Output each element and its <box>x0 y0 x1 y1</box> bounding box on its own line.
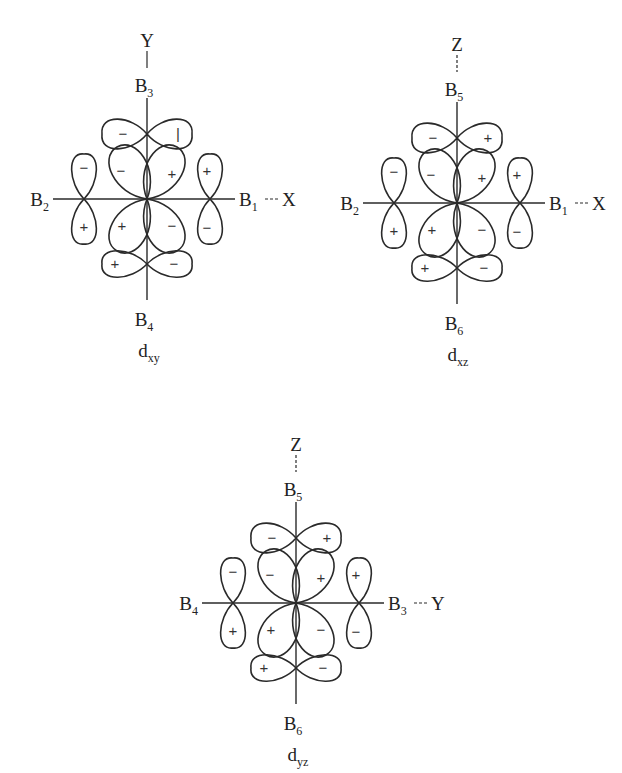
ligand-label-bottom: B6 <box>284 713 303 738</box>
axis-label-top: Y <box>140 30 154 51</box>
sign-left-upper: − <box>229 563 238 580</box>
sign-top-left: − <box>268 529 277 546</box>
axis-label-right: X <box>282 189 296 210</box>
ligand-label-bottom: B6 <box>445 313 464 338</box>
sign-center-lower-right: − <box>478 221 487 238</box>
ligand-label-top: B3 <box>135 75 154 100</box>
sign-right-upper: + <box>203 162 212 179</box>
sign-left-lower: + <box>80 218 89 235</box>
sign-center-lower-left: + <box>428 221 437 238</box>
sign-bottom-right: − <box>480 259 489 276</box>
sign-right-upper: + <box>513 166 522 183</box>
sign-center-upper-right: + <box>478 169 487 186</box>
sign-top-right: + <box>323 529 332 546</box>
sign-left-lower: + <box>229 622 238 639</box>
ligand-label-right: B3 <box>388 593 407 618</box>
axis-label-top: Z <box>290 434 302 455</box>
ligand-label-right: B1 <box>239 189 258 214</box>
sign-center-lower-right: − <box>317 621 326 638</box>
sign-right-lower: − <box>203 219 212 236</box>
ligand-label-left: B2 <box>30 189 49 214</box>
sign-center-upper-right: + <box>317 569 326 586</box>
sign-top-left: − <box>429 129 438 146</box>
sign-center-upper-left: − <box>117 162 126 179</box>
ligand-label-top: B5 <box>445 79 464 104</box>
d-orbital-pi-bonding-diagram: YB3B4B2B1X−|+−−++−−++−dxyZB5B6B2B1X−++−−… <box>0 0 622 773</box>
sign-center-upper-left: − <box>427 166 436 183</box>
sign-bottom-left: + <box>260 659 269 676</box>
sign-top-left: − <box>119 125 128 142</box>
sign-center-upper-left: − <box>266 566 275 583</box>
axis-label-top: Z <box>451 34 463 55</box>
axis-label-right: X <box>592 193 606 214</box>
sign-right-lower: − <box>352 623 361 640</box>
diagram-dyz: ZB5B6B4B3Y−++−−++−−++−dyz <box>179 434 445 769</box>
sign-bottom-right: − <box>319 659 328 676</box>
ligand-label-bottom: B4 <box>135 309 154 334</box>
sign-top-right: | <box>176 125 180 142</box>
sign-center-upper-right: + <box>168 165 177 182</box>
caption-dxy: dxy <box>138 340 160 365</box>
sign-left-upper: − <box>80 159 89 176</box>
sign-left-upper: − <box>390 163 399 180</box>
diagram-dxy: YB3B4B2B1X−|+−−++−−++−dxy <box>30 30 296 365</box>
sign-center-lower-left: + <box>118 217 127 234</box>
sign-right-lower: − <box>513 223 522 240</box>
sign-top-right: + <box>484 129 493 146</box>
diagram-dxz: ZB5B6B2B1X−++−−++−−++−dxz <box>340 34 606 369</box>
sign-right-upper: + <box>352 566 361 583</box>
sign-center-lower-left: + <box>267 621 276 638</box>
ligand-label-left: B4 <box>179 593 198 618</box>
caption-dyz: dyz <box>288 744 309 769</box>
sign-left-lower: + <box>390 222 399 239</box>
ligand-label-right: B1 <box>549 193 568 218</box>
sign-center-lower-right: − <box>168 217 177 234</box>
sign-bottom-left: + <box>111 255 120 272</box>
ligand-label-top: B5 <box>284 479 303 504</box>
sign-bottom-right: − <box>170 255 179 272</box>
ligand-label-left: B2 <box>340 193 359 218</box>
axis-label-right: Y <box>431 593 445 614</box>
caption-dxz: dxz <box>448 344 469 369</box>
sign-bottom-left: + <box>421 259 430 276</box>
